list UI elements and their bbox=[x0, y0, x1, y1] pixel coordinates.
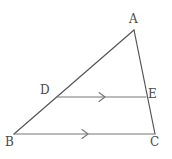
vertex-label-d: D bbox=[40, 84, 50, 96]
vertex-label-e: E bbox=[148, 88, 157, 100]
vertex-label-a: A bbox=[129, 13, 138, 25]
figure-canvas bbox=[0, 0, 172, 159]
segment-ab bbox=[14, 30, 134, 134]
segment-ac bbox=[134, 30, 155, 134]
vertex-label-c: C bbox=[150, 136, 159, 148]
geometry-figure: A B C D E bbox=[0, 0, 172, 159]
vertex-label-b: B bbox=[5, 136, 14, 148]
